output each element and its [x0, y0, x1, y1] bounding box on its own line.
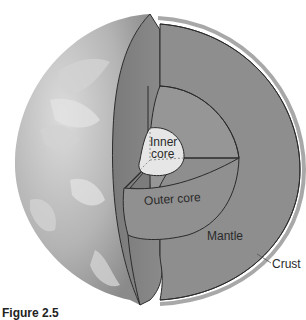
outer-core-label: Outer core: [144, 191, 201, 207]
mantle-label: Mantle: [207, 230, 243, 242]
crust-label: Crust: [272, 258, 301, 270]
figure-caption: Figure 2.5: [2, 306, 59, 320]
inner-core-label-line2: core: [151, 148, 174, 160]
